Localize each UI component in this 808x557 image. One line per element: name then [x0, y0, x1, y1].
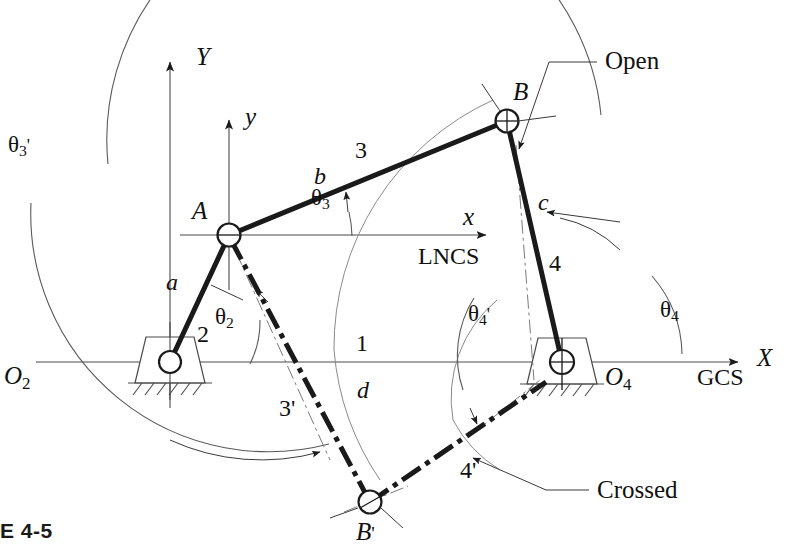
joint-label-b: B — [513, 79, 528, 104]
linkage-diagram-canvas — [0, 0, 808, 557]
global-y-axis-label: Y — [196, 44, 210, 69]
joint-label-a: A — [192, 198, 207, 223]
link-number-3-prime: 3' — [279, 396, 295, 420]
annotation-open: Open — [605, 48, 659, 73]
global-x-axis-label: X — [757, 345, 772, 370]
link-number-2: 2 — [197, 322, 209, 346]
angle-label-theta3-prime: θ3' — [8, 133, 30, 159]
link-number-4: 4 — [549, 251, 561, 275]
link-3-prime-crossed-coupler — [231, 240, 370, 502]
joint-label-o4: O4 — [605, 364, 632, 393]
link-length-c: c — [538, 190, 549, 214]
fourbar-linkage-figure: X Y GCS x y LNCS O2 A B O4 B' 2 3 4 1 3'… — [0, 0, 808, 557]
local-x-axis-label: x — [463, 204, 474, 229]
angle-label-theta4: θ4 — [660, 298, 679, 324]
joint-label-o2: O2 — [4, 363, 31, 392]
theta3-prime-arc — [31, 0, 601, 452]
link-number-4-prime: 4' — [460, 458, 476, 482]
link-4-rocker — [507, 121, 562, 362]
annotation-crossed: Crossed — [597, 477, 678, 502]
local-y-axis-label: y — [245, 104, 256, 129]
open-leader-line — [519, 62, 597, 149]
crossed-leader-line — [473, 458, 589, 490]
construction-centerlines — [236, 145, 540, 512]
link-number-1-ground: 1 — [356, 331, 368, 355]
joint-a — [218, 224, 241, 247]
link-number-3: 3 — [355, 138, 367, 162]
link-4-prime-crossed-rocker — [370, 382, 546, 502]
theta4-angle-arc — [547, 212, 682, 354]
theta3-angle-arc — [346, 192, 352, 236]
joint-o2 — [159, 351, 181, 373]
lncs-label: LNCS — [418, 244, 479, 268]
joint-label-b-prime: B' — [356, 519, 375, 544]
link-length-d: d — [357, 378, 369, 402]
angle-label-theta2: θ2 — [215, 305, 234, 331]
link-length-a: a — [166, 270, 178, 294]
gcs-label: GCS — [697, 365, 744, 389]
angle-label-theta3: θ3 — [311, 186, 330, 212]
figure-caption: E 4-5 — [0, 519, 53, 543]
joint-o4 — [550, 350, 574, 374]
angle-label-theta4-prime: θ4' — [468, 302, 490, 328]
